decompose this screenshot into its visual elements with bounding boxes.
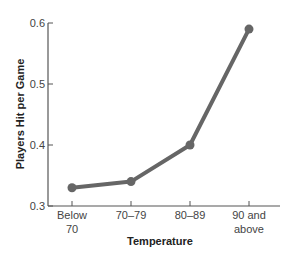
- data-line: [72, 29, 249, 188]
- x-tick-label: above: [234, 223, 264, 235]
- data-point: [245, 25, 254, 34]
- x-tick-label: 80–89: [175, 209, 206, 221]
- x-tick-label: 90 and: [232, 209, 266, 221]
- y-tick-label: 0.4: [30, 139, 45, 151]
- data-series: [68, 25, 254, 193]
- y-axis-title: Players Hit per Game: [14, 59, 26, 170]
- x-axis-title: Temperature: [127, 235, 193, 247]
- y-tick-label: 0.6: [30, 17, 45, 29]
- y-tick-label: 0.3: [30, 200, 45, 212]
- line-chart: 0.30.40.50.6 Below7070–7980–8990 andabov…: [0, 0, 284, 260]
- x-tick-label: 70: [66, 223, 78, 235]
- x-axis: Below7070–7980–8990 andabove: [48, 201, 280, 235]
- x-tick-label: Below: [57, 209, 87, 221]
- data-point: [127, 177, 136, 186]
- data-point: [186, 141, 195, 150]
- y-tick-label: 0.5: [30, 78, 45, 90]
- x-tick-label: 70–79: [116, 209, 147, 221]
- data-point: [68, 183, 77, 192]
- y-axis: 0.30.40.50.6: [30, 17, 53, 212]
